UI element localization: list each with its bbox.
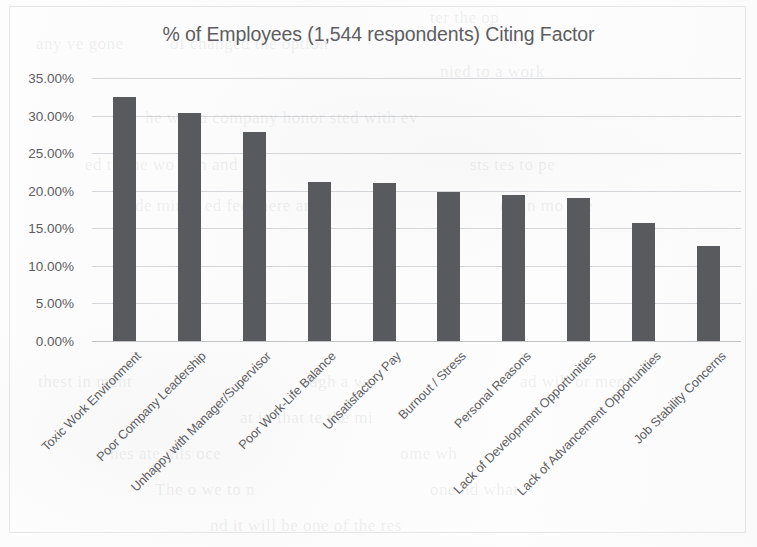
bar <box>308 182 331 341</box>
y-axis-tick-label: 20.00% <box>28 183 74 198</box>
bar <box>178 113 201 341</box>
y-axis-tick-label: 10.00% <box>28 258 74 273</box>
bar <box>632 223 655 341</box>
chart-title: % of Employees (1,544 respondents) Citin… <box>0 23 757 46</box>
x-axis-category-label: Unhappy with Manager/Supervisor <box>129 349 274 494</box>
y-axis-tick-label: 15.00% <box>28 221 74 236</box>
y-axis: 35.00%30.00%25.00%20.00%15.00%10.00%5.00… <box>0 78 84 341</box>
y-axis-tick-label: 35.00% <box>28 71 74 86</box>
bar <box>567 198 590 341</box>
y-axis-tick-label: 5.00% <box>36 296 74 311</box>
bar <box>373 183 396 341</box>
bar <box>697 246 720 341</box>
bar <box>113 97 136 341</box>
x-axis-labels: Toxic Work EnvironmentPoor Company Leade… <box>0 341 757 541</box>
y-axis-tick-label: 25.00% <box>28 146 74 161</box>
bar <box>437 192 460 341</box>
gridline <box>92 78 741 79</box>
plot-area <box>92 78 741 341</box>
x-axis-category-label: Lack of Advancement Opportunities <box>514 349 663 498</box>
bar <box>243 132 266 341</box>
y-axis-tick-label: 30.00% <box>28 108 74 123</box>
x-axis-category-label: Burnout / Stress <box>396 349 469 422</box>
x-axis-category-label: Lack of Development Opportunities <box>451 349 599 497</box>
bar <box>502 195 525 341</box>
x-axis-category-label: Poor Company Leadership <box>94 349 209 464</box>
chart-canvas: any ve goneter the opof changed the opti… <box>0 0 757 547</box>
